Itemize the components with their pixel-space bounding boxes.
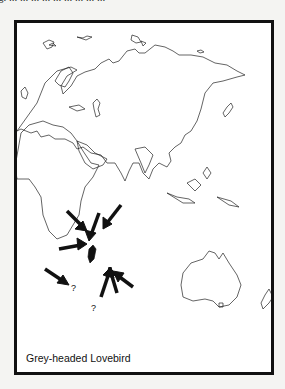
arrow-icon xyxy=(85,213,99,241)
world-map: ? ? xyxy=(17,23,271,372)
india-outline xyxy=(135,147,153,173)
caspian-sea xyxy=(93,99,100,117)
map-figure: ? ? Grey-headed Lovebird xyxy=(14,20,274,375)
arrow-icon xyxy=(59,238,87,250)
japan-outline xyxy=(223,103,233,117)
arrow-icon xyxy=(103,205,121,229)
figure-caption: Grey-headed Lovebird xyxy=(26,352,130,364)
eurasia-outline xyxy=(17,45,245,181)
new-zealand-outline xyxy=(261,289,271,309)
arabia-outline xyxy=(77,141,107,169)
arrow-icon xyxy=(45,269,69,285)
australia-outline xyxy=(181,251,241,307)
question-mark-south-africa: ? xyxy=(71,283,76,293)
arctic-islands xyxy=(43,35,204,53)
question-mark-south-madagascar: ? xyxy=(91,303,96,313)
page-text-fragment: g. ... ... ... ... ... ... ... ... ... xyxy=(0,0,285,6)
britain-outline xyxy=(21,87,28,99)
black-sea xyxy=(69,105,85,111)
madagascar xyxy=(88,245,96,263)
scandinavia-outline xyxy=(55,67,73,87)
se-asia-islands xyxy=(167,167,239,207)
arrow-icon xyxy=(67,211,87,231)
